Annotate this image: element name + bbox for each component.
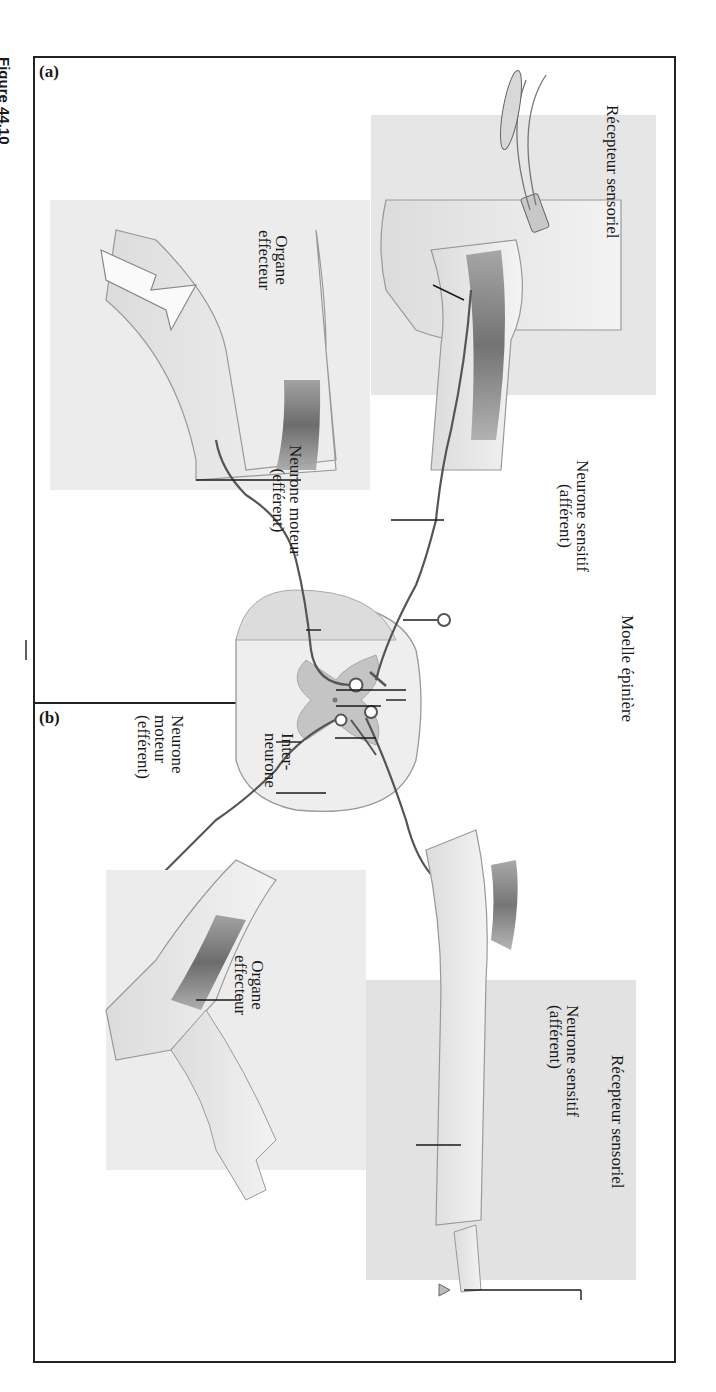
label-motor-neuron-a: Neurone moteur (efférent) [270,445,304,556]
interneuron-cell-body [365,706,377,718]
label-spinal-cord: Moelle épinière [619,615,636,722]
background-panel-b-upper [366,980,636,1280]
reflex-arc-figure: (a) (b) Figure 44.10 Récepteur sensoriel… [0,0,716,1392]
motor-neuron-b-cell-body [336,715,347,726]
label-sensory-neuron-a: Neurone sensitif (afférent) [557,460,591,572]
panel-tag-b: (b) [39,708,60,728]
label-sensory-receptor-a: Récepteur sensoriel [604,105,621,239]
muscle-b-upper [491,860,518,950]
figure-caption: Figure 44.10 [0,57,13,145]
label-effector-b: Organe effecteur [232,955,266,1015]
label-sensory-neuron-b: Neurone sensitif (afférent) [547,1005,581,1117]
label-sensory-receptor-b: Récepteur sensoriel [609,1055,626,1189]
label-effector-a: Organe effecteur [256,230,290,290]
central-canal [333,698,338,703]
label-motor-neuron-b: Neurone moteur (efférent) [135,715,186,779]
panel-tag-a: (a) [39,62,59,82]
sensory-neuron-a-cell-body [438,614,450,626]
label-interneuron: Inter- neurone [262,733,296,788]
pin-stimulus-icon [439,1284,450,1296]
